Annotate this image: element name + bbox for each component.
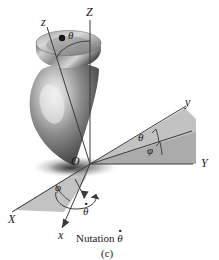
rate-label-theta-dot: θ (83, 206, 88, 217)
nutation-annotation: Nutation θ (76, 233, 123, 244)
nutation-annotation-text: Nutation (76, 232, 115, 244)
theta-dot-glyph: θ (83, 206, 88, 217)
axis-label-Y: Y (201, 157, 208, 169)
nutation-arc-arrowhead (91, 194, 100, 200)
axis-label-x: x (58, 229, 63, 241)
figure-canvas (0, 0, 219, 260)
axis-label-X: X (8, 213, 15, 225)
origin-label-O: O (71, 155, 80, 167)
top-cone (30, 64, 99, 166)
axis-label-Z: Z (86, 6, 93, 18)
nutation-theta-dot-glyph: θ (117, 233, 122, 244)
axis-label-z: z (41, 16, 46, 28)
angle-label-phi-plane: φ (147, 145, 153, 156)
figure-caption: (c) (101, 248, 113, 259)
angle-label-theta-top: θ (68, 30, 73, 41)
spinning-top-nutation-figure: Z X Y z x y O θ θ φ φ θ Nutation θ (c) (0, 0, 219, 260)
axis-label-y: y (185, 96, 190, 108)
spin-axis-marker-dot (59, 35, 65, 41)
angle-label-phi-lower: φ (55, 182, 61, 193)
angle-label-theta-plane: θ (138, 132, 143, 143)
